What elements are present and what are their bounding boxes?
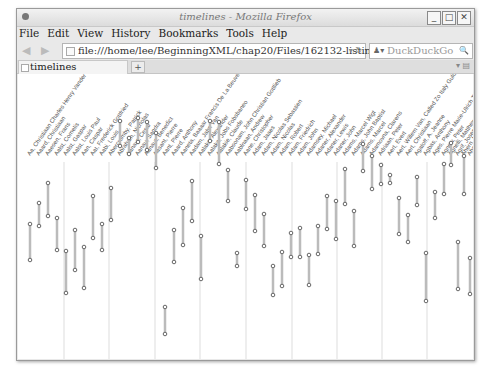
- url-bar[interactable]: file:///home/lee/BeginningXML/chap20/Fil…: [62, 43, 366, 59]
- timeline-bar[interactable]: [397, 196, 401, 236]
- menu-history[interactable]: History: [111, 27, 150, 41]
- timeline-bar[interactable]: [343, 167, 347, 206]
- page-content: Aa, Christiaan Charles Henry VanderAaard…: [18, 74, 473, 359]
- search-engine-icon[interactable]: ♟▾: [373, 44, 384, 58]
- menu-help[interactable]: Help: [262, 27, 287, 41]
- timeline-bar[interactable]: [316, 224, 320, 256]
- title-bar[interactable]: timelines - Mozilla Firefox _ □ ✕: [17, 9, 474, 27]
- menu-bar: File Edit View History Bookmarks Tools H…: [17, 27, 476, 41]
- timeline-bar[interactable]: [462, 154, 466, 196]
- search-box[interactable]: ♟▾ DuckDuckGo 🔍: [369, 43, 473, 59]
- timeline-bar[interactable]: [82, 245, 86, 290]
- tab-label: timelines: [30, 61, 77, 73]
- menu-file[interactable]: File: [19, 27, 39, 41]
- timeline-bar[interactable]: [172, 228, 176, 264]
- timeline-bar[interactable]: [406, 213, 410, 244]
- timeline-bar[interactable]: [190, 179, 194, 223]
- browser-window: timelines - Mozilla Firefox _ □ ✕ File E…: [16, 8, 475, 361]
- timeline-bar[interactable]: [244, 178, 248, 211]
- timeline-bar[interactable]: [456, 240, 460, 291]
- tab-list-icon[interactable]: ▾ ▤: [456, 61, 470, 70]
- timeline-bar[interactable]: [64, 249, 68, 295]
- timeline-bar[interactable]: [100, 222, 104, 252]
- timeline-bar[interactable]: [28, 222, 32, 262]
- timeline-bar[interactable]: [388, 173, 392, 185]
- timeline-bar[interactable]: [415, 175, 419, 207]
- close-button[interactable]: ✕: [457, 11, 471, 25]
- timeline-bar[interactable]: [271, 264, 275, 297]
- timeline-bar[interactable]: [163, 305, 167, 336]
- timeline-bar[interactable]: [235, 251, 239, 268]
- timeline-bar[interactable]: [433, 190, 437, 220]
- back-arrow-icon[interactable]: ◀: [22, 44, 30, 57]
- timeline-bar[interactable]: [55, 216, 59, 252]
- search-placeholder: DuckDuckGo: [387, 44, 453, 58]
- timeline-bar[interactable]: [442, 162, 446, 196]
- timeline-bar[interactable]: [262, 212, 266, 248]
- url-dropdown-icon[interactable]: ▾ ↻: [349, 44, 362, 58]
- new-tab-button[interactable]: +: [131, 61, 145, 73]
- timeline-bar[interactable]: [181, 206, 185, 247]
- menu-tools[interactable]: Tools: [226, 27, 254, 41]
- timeline-bar[interactable]: [280, 250, 284, 288]
- timeline-bar[interactable]: [325, 194, 329, 231]
- timeline-bar[interactable]: [37, 201, 41, 228]
- timeline-bar[interactable]: [370, 154, 374, 191]
- menu-bookmarks[interactable]: Bookmarks: [159, 27, 219, 41]
- navigation-bar: ◀ ▶ file:///home/lee/BeginningXML/chap20…: [17, 42, 474, 59]
- timeline-bar[interactable]: [46, 181, 50, 218]
- maximize-button[interactable]: □: [442, 11, 456, 25]
- timeline-bar[interactable]: [91, 194, 95, 240]
- timeline-bar[interactable]: [298, 226, 302, 259]
- timeline-bar[interactable]: [307, 253, 311, 287]
- tab-favicon-icon: [21, 64, 29, 72]
- tab-timelines[interactable]: timelines: [18, 60, 128, 74]
- window-controls: _ □ ✕: [427, 11, 471, 25]
- forward-arrow-icon[interactable]: ▶: [41, 44, 49, 57]
- timeline-bar[interactable]: [226, 168, 230, 203]
- timeline-bar[interactable]: [73, 228, 77, 272]
- timeline-bar[interactable]: [253, 193, 257, 233]
- tab-bar: timelines + ▾ ▤: [17, 60, 474, 74]
- minimize-button[interactable]: _: [427, 11, 441, 25]
- timeline-chart: Aa, Christiaan Charles Henry VanderAaard…: [18, 74, 473, 359]
- menu-view[interactable]: View: [77, 27, 103, 41]
- timeline-bar[interactable]: [352, 209, 356, 248]
- search-icon[interactable]: 🔍: [459, 44, 469, 58]
- window-title: timelines - Mozilla Firefox: [17, 11, 474, 22]
- menu-edit[interactable]: Edit: [47, 27, 69, 41]
- timeline-bar[interactable]: [468, 256, 472, 296]
- page-favicon-icon: [66, 47, 75, 56]
- timeline-bar[interactable]: [109, 186, 113, 222]
